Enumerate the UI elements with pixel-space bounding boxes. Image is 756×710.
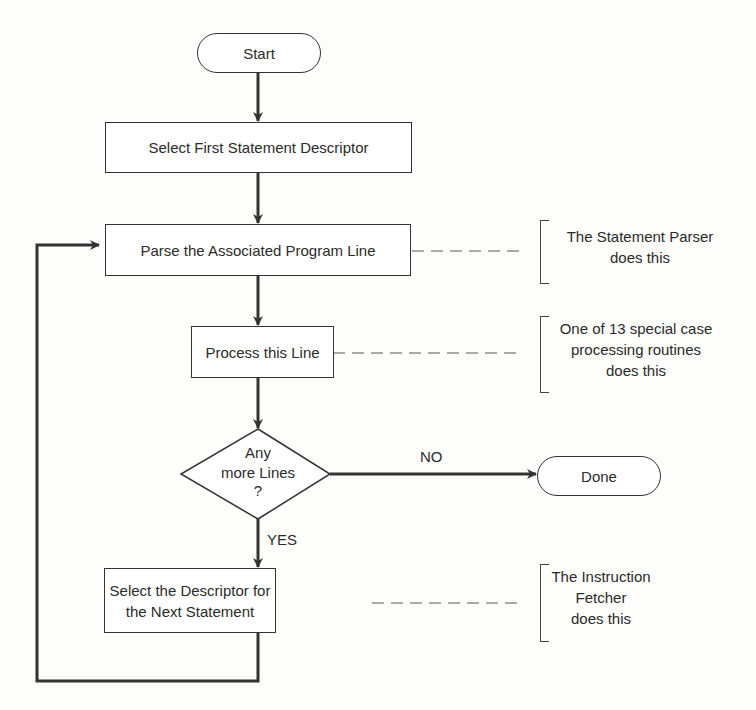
select-first-descriptor-box: Select First Statement Descriptor (105, 122, 412, 173)
annotation-fetcher-line-3: does this (546, 608, 656, 629)
decision-line-1: Any (196, 443, 320, 463)
select-next-descriptor-box: Select the Descriptor for the Next State… (104, 568, 276, 633)
annotation-parser: The Statement Parser does this (550, 226, 730, 268)
select-first-label: Select First Statement Descriptor (148, 137, 368, 158)
decision-text: Any more Lines ? (196, 443, 320, 499)
start-terminal: Start (197, 33, 321, 73)
annotation-fetcher: The Instruction Fetcher does this (546, 566, 656, 629)
select-next-line-1: Select the Descriptor for (110, 580, 271, 601)
annotation-bracket-parser (540, 220, 549, 284)
done-label: Done (581, 466, 617, 487)
parse-program-line-box: Parse the Associated Program Line (105, 224, 411, 276)
decision-line-2: more Lines (196, 463, 320, 483)
no-label: NO (420, 448, 443, 465)
yes-label: YES (267, 531, 297, 548)
annotation-fetcher-line-1: The Instruction (546, 566, 656, 587)
flowchart-canvas: Start Select First Statement Descriptor … (0, 0, 756, 710)
annotation-special-line-1: One of 13 special case (546, 318, 726, 339)
start-label: Start (243, 43, 275, 64)
process-label: Process this Line (205, 342, 319, 363)
select-next-line-2: the Next Statement (126, 601, 254, 622)
annotation-special-line-3: does this (546, 360, 726, 381)
decision-line-3: ? (196, 483, 320, 499)
annotation-parser-line-1: The Statement Parser (550, 226, 730, 247)
process-line-box: Process this Line (191, 326, 334, 378)
done-terminal: Done (537, 456, 661, 496)
annotation-fetcher-line-2: Fetcher (546, 587, 656, 608)
parse-label: Parse the Associated Program Line (140, 240, 375, 261)
annotation-parser-line-2: does this (550, 247, 730, 268)
annotation-special-line-2: processing routines (546, 339, 726, 360)
annotation-special: One of 13 special case processing routin… (546, 318, 726, 381)
